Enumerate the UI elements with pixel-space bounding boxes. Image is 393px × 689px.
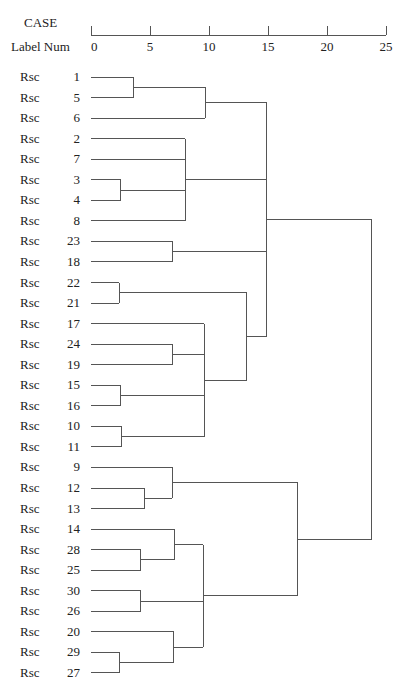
leaf-number: 28 bbox=[67, 542, 80, 557]
leaf-label: Rsc bbox=[20, 644, 40, 659]
leaf-label: Rsc bbox=[20, 459, 40, 474]
leaf-label: Rsc bbox=[20, 90, 40, 105]
axis-tick-label: 10 bbox=[203, 39, 216, 54]
leaf-number: 8 bbox=[74, 213, 81, 228]
leaf-label: Rsc bbox=[20, 213, 40, 228]
axis-tick-label: 20 bbox=[321, 39, 334, 54]
leaf-number: 3 bbox=[74, 172, 81, 187]
leaf-number: 6 bbox=[74, 110, 81, 125]
leaf-labels: Rsc1Rsc5Rsc6Rsc2Rsc7Rsc3Rsc4Rsc8Rsc23Rsc… bbox=[20, 69, 81, 680]
leaf-number: 25 bbox=[67, 562, 80, 577]
leaf-label: Rsc bbox=[20, 192, 40, 207]
dendrogram-links bbox=[91, 77, 372, 673]
leaf-number: 10 bbox=[67, 418, 80, 433]
leaf-label: Rsc bbox=[20, 336, 40, 351]
leaf-label: Rsc bbox=[20, 131, 40, 146]
leaf-number: 9 bbox=[74, 459, 81, 474]
leaf-label: Rsc bbox=[20, 254, 40, 269]
leaf-label: Rsc bbox=[20, 377, 40, 392]
leaf-label: Rsc bbox=[20, 398, 40, 413]
leaf-number: 19 bbox=[67, 357, 80, 372]
leaf-number: 27 bbox=[67, 665, 81, 680]
distance-axis: 0510152025 bbox=[91, 26, 393, 54]
leaf-number: 21 bbox=[67, 295, 80, 310]
leaf-number: 18 bbox=[67, 254, 80, 269]
dendrogram: 0510152025 Rsc1Rsc5Rsc6Rsc2Rsc7Rsc3Rsc4R… bbox=[0, 0, 393, 689]
leaf-number: 20 bbox=[67, 624, 80, 639]
leaf-label: Rsc bbox=[20, 316, 40, 331]
leaf-label: Rsc bbox=[20, 521, 40, 536]
leaf-label: Rsc bbox=[20, 69, 40, 84]
leaf-number: 14 bbox=[67, 521, 81, 536]
leaf-label: Rsc bbox=[20, 418, 40, 433]
leaf-number: 24 bbox=[67, 336, 81, 351]
leaf-label: Rsc bbox=[20, 110, 40, 125]
axis-tick-label: 15 bbox=[262, 39, 275, 54]
leaf-label: Rsc bbox=[20, 624, 40, 639]
leaf-label: Rsc bbox=[20, 295, 40, 310]
leaf-number: 22 bbox=[67, 275, 80, 290]
leaf-number: 2 bbox=[74, 131, 81, 146]
leaf-label: Rsc bbox=[20, 233, 40, 248]
leaf-label: Rsc bbox=[20, 583, 40, 598]
leaf-label: Rsc bbox=[20, 501, 40, 516]
leaf-number: 15 bbox=[67, 377, 80, 392]
leaf-number: 26 bbox=[67, 603, 81, 618]
leaf-label: Rsc bbox=[20, 172, 40, 187]
leaf-number: 11 bbox=[67, 439, 80, 454]
leaf-number: 23 bbox=[67, 233, 80, 248]
leaf-label: Rsc bbox=[20, 275, 40, 290]
leaf-label: Rsc bbox=[20, 480, 40, 495]
leaf-number: 16 bbox=[67, 398, 81, 413]
leaf-label: Rsc bbox=[20, 665, 40, 680]
leaf-number: 5 bbox=[74, 90, 81, 105]
leaf-number: 29 bbox=[67, 644, 80, 659]
leaf-number: 13 bbox=[67, 501, 80, 516]
leaf-label: Rsc bbox=[20, 439, 40, 454]
leaf-number: 30 bbox=[67, 583, 80, 598]
leaf-label: Rsc bbox=[20, 542, 40, 557]
axis-tick-label: 0 bbox=[91, 39, 98, 54]
leaf-label: Rsc bbox=[20, 151, 40, 166]
axis-tick-label: 25 bbox=[380, 39, 393, 54]
leaf-label: Rsc bbox=[20, 562, 40, 577]
leaf-number: 1 bbox=[74, 69, 81, 84]
leaf-label: Rsc bbox=[20, 603, 40, 618]
leaf-number: 17 bbox=[67, 316, 81, 331]
leaf-number: 12 bbox=[67, 480, 80, 495]
axis-tick-label: 5 bbox=[147, 39, 154, 54]
leaf-number: 7 bbox=[74, 151, 81, 166]
leaf-number: 4 bbox=[74, 192, 81, 207]
leaf-label: Rsc bbox=[20, 357, 40, 372]
